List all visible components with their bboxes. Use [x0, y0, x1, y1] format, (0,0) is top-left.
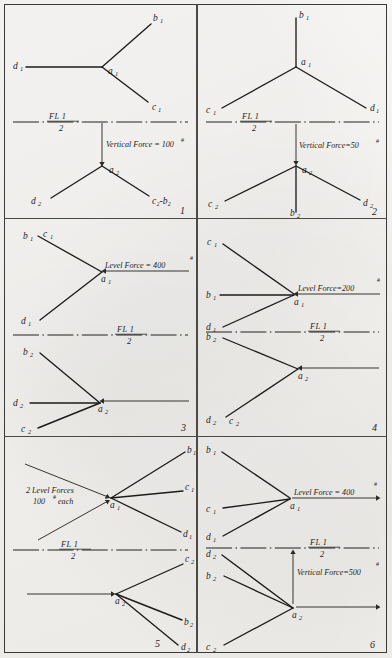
label-c2: c: [208, 199, 213, 209]
panel-number-6: 6: [370, 639, 375, 650]
label-c2: c: [229, 416, 234, 426]
member-c2: [225, 166, 296, 201]
label-c2-sub: 2: [191, 558, 195, 565]
upper-joint-2: b 1 a 1 c 1 d 1: [206, 10, 379, 116]
label-c2-b2: c₂-b₂: [152, 196, 171, 206]
lower-joint-1: a 2 d 2 c₂-b₂: [31, 165, 171, 207]
fold-line-1: FL 1 2: [13, 112, 188, 133]
member-c2: [226, 369, 298, 417]
label-d2-sub: 2: [38, 200, 42, 207]
label-c2-sub: 2: [236, 420, 240, 427]
force-unit-2: #: [376, 137, 379, 144]
label-b1: b: [23, 231, 28, 241]
label-a2-sub: 2: [105, 408, 109, 415]
label-d2: d: [31, 196, 36, 206]
panel-6: b 1 c 1 d 1 a 1 Level Force = 400 # FL 1…: [198, 438, 387, 653]
member-d1: [296, 67, 366, 108]
label-a1: a: [301, 57, 306, 67]
member-d2: [116, 594, 178, 645]
lower-joint-3: b 2 d 2 c 2 a 2: [13, 347, 189, 435]
label-c1: c: [185, 482, 190, 492]
upper-joint-5: b 1 c 1 d 1 a 1: [110, 445, 196, 540]
label-c2: c: [185, 554, 190, 564]
panel-3: b 1 c 1 d 1 a 1 Level Force = 400 # FL 1…: [5, 220, 196, 435]
label-c1-sub: 1: [214, 241, 217, 248]
label-c1-sub: 1: [158, 106, 161, 113]
label-b2-sub: 2: [297, 212, 301, 218]
label-a2: a: [109, 165, 114, 175]
member-b1: [111, 452, 185, 498]
member-c1: [223, 244, 294, 294]
label-b2: b: [290, 208, 295, 218]
fold-line-label-top: FL 1: [48, 112, 66, 121]
fold-line-label-top: FL 1: [60, 540, 78, 549]
force-unit-level-6: #: [374, 480, 377, 487]
label-a1: a: [108, 66, 113, 76]
fold-line-4: FL 1 2: [206, 322, 379, 343]
lower-joint-6: Vertical Force=500 # d 2 b 2 c 2 a 2: [206, 549, 379, 653]
applied-force-4: Level Force=200 #: [296, 276, 380, 294]
member-b1: [222, 452, 290, 498]
label-c1: c: [152, 102, 157, 112]
fold-line-6: FL 1 2: [206, 538, 379, 559]
label-b1: b: [187, 445, 192, 455]
label-a2-sub: 2: [305, 375, 309, 382]
force-note-vertical-6: Vertical Force=500: [297, 568, 361, 577]
label-a1-sub: 1: [115, 70, 118, 77]
fold-line-label-bottom: 2: [252, 124, 257, 133]
label-c2-sub: 2: [28, 428, 32, 435]
label-a1: a: [290, 501, 295, 511]
label-d1-sub: 1: [376, 107, 379, 114]
panel-number-3: 3: [180, 422, 186, 433]
label-a2: a: [302, 165, 307, 175]
member-b2: [116, 594, 182, 620]
label-b1-sub: 1: [213, 449, 216, 456]
label-a2: a: [98, 404, 103, 414]
label-a1-sub: 1: [308, 61, 311, 68]
label-d1: d: [183, 529, 188, 539]
fold-line-label-bottom: 2: [320, 334, 325, 343]
label-c1: c: [43, 229, 48, 239]
applied-force-level-6: Level Force = 400 #: [292, 480, 378, 498]
force-note-2: Vertical Force=50: [299, 141, 359, 150]
label-b2: b: [206, 571, 211, 581]
fold-line-5: FL 1 2: [13, 540, 188, 561]
fold-line-3: FL 1 2: [13, 325, 188, 346]
label-b1: b: [206, 290, 211, 300]
label-a2: a: [298, 371, 303, 381]
label-c1-sub: 1: [50, 233, 53, 240]
member-b1: [102, 24, 151, 67]
label-c1: c: [206, 105, 211, 115]
label-d1: d: [206, 322, 211, 332]
member-b2: [223, 338, 298, 369]
label-a1: a: [110, 500, 115, 510]
label-c1-sub: 1: [191, 486, 194, 493]
force-note-4: Level Force=200: [297, 284, 354, 293]
label-b1-sub: 1: [160, 17, 163, 24]
force-unit-4: #: [377, 276, 380, 283]
label-d2-sub: 2: [213, 419, 217, 426]
label-d1-sub: 1: [28, 320, 31, 327]
force-unit-vertical-6: #: [376, 560, 379, 567]
applied-force-2: Vertical Force=50 #: [296, 124, 379, 163]
fold-line-label-bottom: 2: [127, 337, 132, 346]
fold-line-label-top: FL 1: [116, 325, 134, 334]
lower-joint-4: b 2 a 2 d 2 c 2: [206, 332, 379, 427]
member-b2: [224, 576, 293, 608]
fold-line-label-top: FL 1: [309, 538, 327, 547]
member-d1: [40, 272, 102, 320]
label-a1-sub: 1: [297, 505, 300, 512]
label-c1: c: [207, 237, 212, 247]
label-b1-sub: 1: [193, 449, 196, 456]
force-note-1: Vertical Force = 100: [106, 140, 174, 149]
drawing-sheet: b 1 d 1 c 1 a 1 FL 1 2 Vertical Force = …: [0, 0, 392, 658]
applied-forces-5: 2 Level Forces 100 # each: [25, 464, 108, 540]
label-d1-sub: 1: [20, 65, 23, 72]
label-c2: c: [206, 642, 211, 652]
member-d1: [223, 295, 294, 327]
member-c2: [224, 608, 293, 645]
label-c1-sub: 1: [213, 109, 216, 116]
label-a2: a: [292, 610, 297, 620]
member-c1: [222, 67, 296, 108]
label-a1-sub: 1: [301, 301, 304, 308]
